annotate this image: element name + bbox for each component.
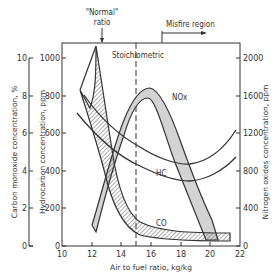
svg-text:400: 400	[45, 167, 60, 176]
x-axis-ticks: 10 12 14 16 18 20 22	[57, 242, 245, 259]
svg-text:10: 10	[17, 54, 27, 63]
nox-axis-title: Nitrogen oxides concentration, ppm	[261, 85, 270, 220]
svg-text:12: 12	[87, 250, 97, 259]
normal-ratio-label-1: "Normal"	[86, 8, 119, 17]
plot-frame	[62, 43, 240, 246]
hc-axis-title: Hydrocarbon concentration, ppm	[38, 90, 47, 214]
svg-text:800: 800	[243, 167, 258, 176]
emissions-chart: 0 2 4 6 8 10 0 200 400 600 800 1000 0 40…	[0, 0, 278, 277]
svg-text:0: 0	[22, 242, 27, 251]
nox-label: NOx	[172, 93, 188, 102]
misfire-label: Misfire region	[166, 20, 215, 29]
svg-text:6: 6	[22, 129, 27, 138]
co-axis-title: Carbon monoxide concentration, %	[10, 86, 19, 219]
normal-ratio-label-2: ratio	[94, 18, 111, 27]
x-axis-title: Air to fuel ratio, kg/kg	[110, 263, 192, 272]
svg-text:400: 400	[243, 204, 258, 213]
svg-text:10: 10	[57, 250, 67, 259]
co-label: CO	[156, 219, 167, 228]
svg-text:8: 8	[22, 92, 27, 101]
svg-text:2000: 2000	[243, 54, 263, 63]
svg-text:200: 200	[45, 204, 60, 213]
svg-text:16: 16	[146, 250, 156, 259]
svg-text:22: 22	[235, 250, 245, 259]
svg-text:600: 600	[45, 129, 60, 138]
svg-text:2: 2	[22, 204, 27, 213]
svg-text:18: 18	[176, 250, 186, 259]
stoichiometric-label: Stoichiometric	[112, 51, 164, 60]
svg-text:800: 800	[45, 92, 60, 101]
svg-text:4: 4	[22, 167, 27, 176]
svg-text:20: 20	[205, 250, 215, 259]
co-axis-ticks: 0 2 4 6 8 10	[17, 54, 33, 251]
svg-text:1000: 1000	[40, 54, 60, 63]
hc-label: HC	[156, 169, 166, 178]
svg-text:14: 14	[116, 250, 126, 259]
